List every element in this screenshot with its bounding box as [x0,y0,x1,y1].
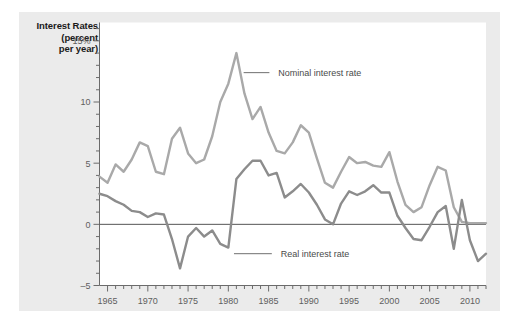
x-axis-minor-ticks [116,286,486,290]
x-tick-label: 2010 [460,296,480,306]
x-tick-label: 1970 [138,296,158,306]
x-tick-label: 1985 [259,296,279,306]
x-tick-label: 1990 [299,296,319,306]
plot-area-background [100,23,487,286]
x-axis-major-ticks [108,286,470,292]
y-tick-label: 10 [80,97,90,107]
y-tick-label: 5 [85,159,90,169]
y-axis-minor-ticks [96,29,100,274]
annotation-label: Real interest rate [281,249,350,259]
x-axis-tick-labels: 1965197019751980198519901995200020052010 [98,296,480,306]
x-tick-label: 1965 [98,296,118,306]
y-axis-tick-labels: –5051015% [72,36,90,291]
x-tick-label: 2000 [379,296,399,306]
x-tick-label: 1980 [218,296,238,306]
x-tick-label: 2005 [420,296,440,306]
x-tick-label: 1995 [339,296,359,306]
line-chart: –5051015% 196519701975198019851990199520… [0,0,518,330]
y-tick-label: –5 [80,281,90,291]
annotation-label: Nominal interest rate [278,68,361,78]
y-tick-label: 0 [85,220,90,230]
y-tick-label: 15% [72,36,90,46]
x-tick-label: 1975 [178,296,198,306]
figure-container: Interest Rates (percent per year) –50510… [0,0,518,330]
